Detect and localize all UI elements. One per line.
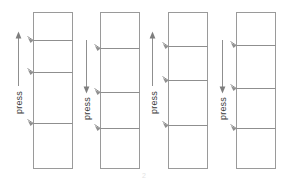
column-2-press-arrow <box>84 40 90 94</box>
column-3-nub-2 <box>163 77 169 84</box>
column-2-nub-1 <box>95 45 101 52</box>
column-2-outline <box>101 13 140 169</box>
column-4-group: press <box>218 13 276 169</box>
figure-canvas: press press <box>0 0 288 180</box>
column-1-outline <box>34 13 73 169</box>
column-2-press-label: press <box>82 97 92 120</box>
column-4-nub-2 <box>231 85 237 92</box>
column-1-group: press <box>14 13 73 169</box>
column-2-nub-3 <box>95 125 101 132</box>
column-1-nub-2 <box>28 69 34 76</box>
press-diagram: press press <box>0 0 288 180</box>
column-3-nub-3 <box>163 122 169 129</box>
column-2-group: press <box>82 13 140 169</box>
column-3-group: press <box>149 13 208 169</box>
column-3-press-label: press <box>149 91 159 114</box>
column-4-press-arrow <box>220 40 226 94</box>
column-4-press-label: press <box>218 97 228 120</box>
column-2-nub-2 <box>95 89 101 96</box>
column-1-nub-3 <box>28 120 34 127</box>
column-3-outline <box>169 13 208 169</box>
column-1-nub-1 <box>28 37 34 44</box>
column-4-outline <box>237 13 276 169</box>
column-4-nub-1 <box>231 42 237 49</box>
figure-caption: 2 <box>142 172 146 179</box>
column-3-nub-1 <box>163 43 169 50</box>
column-1-press-label: press <box>14 91 24 114</box>
column-4-nub-3 <box>231 125 237 132</box>
column-3-press-arrow <box>150 32 156 87</box>
column-1-press-arrow <box>16 32 22 87</box>
